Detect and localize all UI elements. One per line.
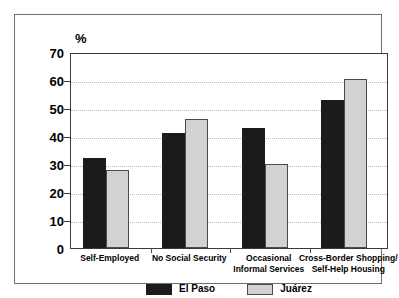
figure-frame: % 706050403020100 Self-EmployedNo Social… [14,14,382,284]
x-label-line: Cross-Border Shopping/ [295,253,399,264]
x-category-label-4: Cross-Border Shopping/Self-Help Housing [295,253,399,275]
legend-item-el-paso[interactable]: El Paso [146,284,215,295]
x-axis-category-labels: Self-EmployedNo Social SecurityOccasiona… [70,253,388,283]
legend-swatch-icon [146,284,172,295]
bar-juarez-group-1 [106,170,129,248]
y-tick-label-50: 50 [30,103,64,116]
legend-swatch-icon [247,284,273,295]
plot-area [70,53,388,249]
bar-juarez-group-4 [344,79,367,248]
chart-figure: % 706050403020100 Self-EmployedNo Social… [0,0,399,298]
y-tick-label-30: 30 [30,159,64,172]
gridline-60 [71,82,387,83]
y-tick-label-70: 70 [30,47,64,60]
legend-item-juarez[interactable]: Juárez [247,284,312,295]
bar-el-paso-group-4 [321,100,344,248]
y-tick-label-40: 40 [30,131,64,144]
bar-juarez-group-2 [185,119,208,248]
bar-el-paso-group-2 [162,133,185,248]
y-axis-unit-label: % [75,31,87,46]
chart-legend: El PasoJuárez [70,281,388,297]
bar-el-paso-group-3 [242,128,265,248]
y-tick-label-20: 20 [30,187,64,200]
bar-juarez-group-3 [265,164,288,248]
bar-el-paso-group-1 [83,158,106,248]
y-tick-label-60: 60 [30,75,64,88]
legend-label: El Paso [179,284,215,294]
y-axis: 706050403020100 [23,53,64,249]
legend-label: Juárez [280,284,312,294]
x-label-line: Self-Help Housing [295,264,399,275]
y-tick-label-10: 10 [30,215,64,228]
